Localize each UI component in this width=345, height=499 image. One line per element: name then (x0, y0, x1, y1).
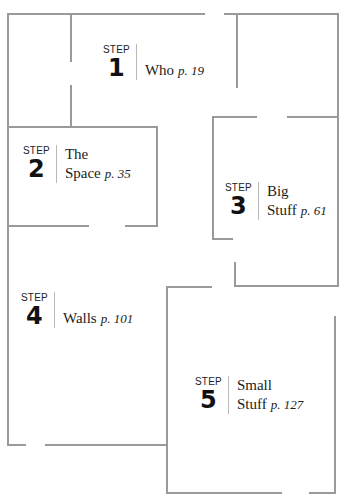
page-ref: p. 101 (101, 311, 134, 326)
step-number: 5 (200, 388, 217, 412)
step-number: 1 (108, 56, 125, 80)
step-1[interactable]: STEP 1 Whop. 19 (103, 44, 204, 80)
step-number: 2 (28, 157, 45, 181)
step-number: 4 (26, 304, 43, 328)
step-title-2: Stuff (267, 202, 297, 218)
step-title: Walls (63, 310, 97, 326)
step-title-2: Stuff (237, 396, 267, 412)
page-ref: p. 35 (105, 166, 131, 181)
step-4[interactable]: STEP 4 Wallsp. 101 (21, 292, 133, 328)
step-2[interactable]: STEP 2 The Spacep. 35 (23, 145, 131, 183)
page-ref: p. 19 (178, 63, 204, 78)
step-title: Who (145, 62, 174, 78)
step-number: 3 (230, 194, 247, 218)
step-title: Small (237, 376, 303, 395)
step-3[interactable]: STEP 3 Big Stuffp. 61 (225, 182, 327, 220)
step-title: Big (267, 182, 327, 201)
page-ref: p. 61 (301, 203, 327, 218)
page-ref: p. 127 (271, 397, 304, 412)
step-title: The (65, 145, 131, 164)
step-5[interactable]: STEP 5 Small Stuffp. 127 (195, 376, 303, 414)
step-title-2: Space (65, 165, 101, 181)
